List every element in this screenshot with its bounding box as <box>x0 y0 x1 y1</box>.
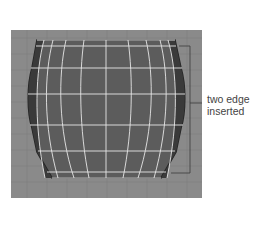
3d-viewport[interactable] <box>11 30 202 198</box>
mesh-body <box>28 40 185 178</box>
barrel-mesh-wireframe <box>11 30 202 198</box>
annotation-line-2: inserted <box>207 105 250 117</box>
annotation-line-1: two edge <box>207 93 250 105</box>
annotation-label: two edge inserted <box>207 93 250 117</box>
